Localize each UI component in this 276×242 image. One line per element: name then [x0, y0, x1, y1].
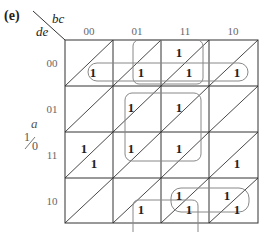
cell-value: 1	[176, 141, 183, 156]
cell-value: 1	[234, 202, 241, 217]
cell-value: 1	[234, 65, 241, 80]
col-header: 01	[132, 25, 143, 37]
cell-value: 1	[138, 65, 145, 80]
side-var-name: a	[31, 116, 38, 131]
cell-value: 1	[176, 45, 183, 60]
group-loops	[88, 40, 249, 232]
col-var-label: bc	[52, 11, 65, 26]
cell-value: 1	[138, 202, 145, 217]
side-var-upper: 1	[24, 130, 30, 144]
cell-value: 1	[186, 202, 193, 217]
row-header: 10	[47, 195, 59, 207]
side-var-lower: 0	[32, 139, 38, 153]
column-headers: 00 01 11 10	[84, 25, 240, 37]
col-header: 11	[180, 25, 191, 37]
cell-value: 1	[176, 188, 183, 203]
col-header: 10	[228, 25, 240, 37]
col-header: 00	[84, 25, 96, 37]
row-header: 11	[47, 149, 58, 161]
cell-value: 1	[224, 188, 231, 203]
row-headers: 00 01 11 10	[47, 57, 59, 207]
row-header: 01	[47, 103, 58, 115]
row-header: 00	[47, 57, 59, 69]
cell-value: 1	[128, 100, 135, 115]
cell-value: 1	[234, 156, 241, 171]
karnaugh-map: (e) bc de 00 01 11 10 00 01 11 10 a 1 0	[0, 0, 276, 242]
cell-value: 1	[90, 65, 97, 80]
cell-value: 1	[81, 141, 88, 156]
figure-label: (e)	[4, 8, 20, 24]
cell-value: 1	[128, 141, 135, 156]
cell-value: 1	[186, 65, 193, 80]
row-var-label: de	[36, 24, 49, 39]
cell-value: 1	[91, 156, 98, 171]
cell-value: 1	[176, 100, 183, 115]
